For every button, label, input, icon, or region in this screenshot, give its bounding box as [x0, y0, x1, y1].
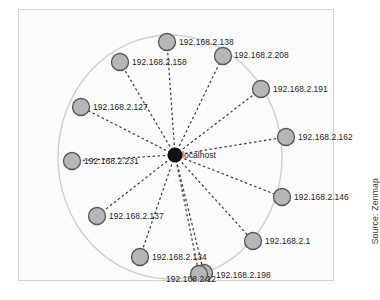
host-label: 192.168.2.158	[132, 58, 187, 66]
host-link	[175, 155, 253, 241]
host-node[interactable]	[245, 233, 262, 250]
host-link	[175, 56, 223, 155]
host-label: 192.168.2.198	[216, 271, 271, 279]
localhost-label: localhost	[182, 151, 216, 160]
source-attribution: Source: Zenmap	[370, 178, 380, 244]
host-node[interactable]	[215, 48, 232, 65]
host-label: 192.168.2.12	[166, 275, 216, 283]
host-label: 192.168.2.231	[84, 157, 139, 165]
host-node[interactable]	[64, 153, 81, 170]
host-link	[175, 155, 282, 197]
host-node[interactable]	[274, 189, 291, 206]
host-label: 192.168.2.134	[152, 253, 207, 261]
host-link	[81, 107, 175, 155]
host-node[interactable]	[278, 129, 295, 146]
host-node[interactable]	[89, 208, 106, 225]
localhost-node-layer	[168, 148, 183, 163]
host-label: 192.168.2.127	[93, 103, 148, 111]
host-label: 192.168.2.146	[294, 193, 349, 201]
host-label: 192.168.2.138	[179, 38, 234, 46]
host-label: 192.168.2.1	[265, 237, 310, 245]
host-label: 192.168.2.208	[234, 51, 289, 59]
host-node[interactable]	[132, 249, 149, 266]
host-node[interactable]	[112, 54, 129, 71]
host-link	[140, 155, 175, 257]
host-label: 192.168.2.137	[109, 212, 164, 220]
host-node[interactable]	[159, 34, 176, 51]
host-label: 192.168.2.191	[273, 85, 328, 93]
localhost-node[interactable]	[168, 148, 183, 163]
host-node[interactable]	[73, 99, 90, 116]
host-link	[175, 89, 261, 155]
host-node[interactable]	[253, 81, 270, 98]
host-label: 192.168.2.162	[298, 133, 353, 141]
